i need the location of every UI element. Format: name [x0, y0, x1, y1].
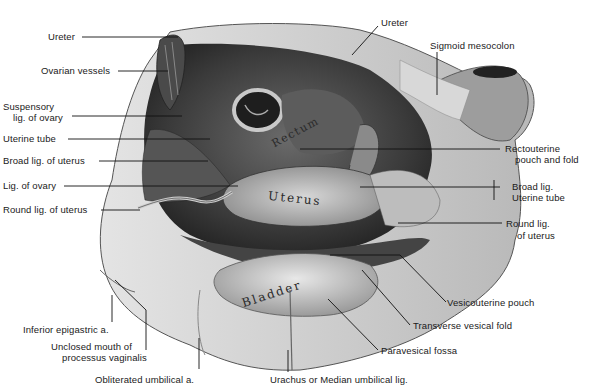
label-ovarian-vessels: Ovarian vessels [41, 65, 110, 76]
label-lig-of-ovary: Lig. of ovary [3, 180, 56, 191]
label-suspensory-lig-line1: Suspensory [3, 101, 54, 112]
label-uterine-tube: Uterine tube [3, 133, 56, 144]
label-round-lig-right-line1: Round lig. [506, 218, 550, 229]
label-unclosed-mouth-line2: processus vaginalis [62, 352, 147, 363]
label-broad-lig-line2: Uterine tube [512, 192, 565, 203]
label-vesicouterine: Vesicouterine pouch [447, 297, 534, 308]
label-inferior-epigastric: Inferior epigastric a. [23, 324, 109, 335]
label-ureter-right: Ureter [381, 17, 408, 28]
label-urachus: Urachus or Median umbilical lig. [270, 374, 408, 385]
label-sigmoid-mesocolon: Sigmoid mesocolon [430, 40, 515, 51]
label-broad-lig-uterus: Broad lig. of uterus [3, 155, 85, 166]
label-round-lig-right-line2: of uterus [517, 230, 555, 241]
label-suspensory-lig-line2: lig. of ovary [13, 112, 63, 123]
label-transverse-vesical: Transverse vesical fold [413, 320, 512, 331]
label-obliterated-umbilical: Obliterated umbilical a. [95, 374, 194, 385]
label-rectouterine-line2: pouch and fold [515, 154, 579, 165]
rectum-lumen [234, 90, 282, 130]
label-unclosed-mouth-line1: Unclosed mouth of [51, 341, 132, 352]
label-paravesical: Paravesical fossa [381, 345, 457, 356]
label-ureter-left: Ureter [48, 31, 75, 42]
label-round-lig-left: Round lig. of uterus [3, 204, 87, 215]
label-broad-lig-line1: Broad lig. [512, 181, 553, 192]
anatomy-figure: Rectum Uterus Bladder [0, 0, 604, 391]
label-rectouterine-line1: Rectouterine [505, 143, 560, 154]
